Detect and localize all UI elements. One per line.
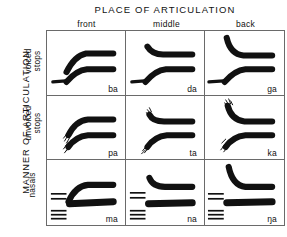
row-header-unvoiced-stops-line2: stops (33, 113, 43, 134)
spectrogram-cell-ka: ka (205, 96, 284, 161)
formant-transition-matrix-figure: PLACE OF ARTICULATION front middle back … (0, 0, 287, 237)
row-header-nasals: nasals (18, 154, 48, 216)
spectrogram-cell-ma: ma (47, 160, 126, 225)
nasal-murmur-bars-ma (51, 194, 67, 219)
syllable-label-ta: ta (190, 148, 198, 158)
column-header-front: front (47, 19, 126, 29)
syllable-label-ga: ga (267, 84, 277, 94)
syllable-label-pa: pa (108, 148, 118, 158)
syllable-label-da: da (187, 84, 197, 94)
syllable-label-ka: ka (268, 148, 277, 158)
syllable-label-nga: ŋa (267, 214, 277, 224)
row-header-voiced-stops: voiced stops (18, 30, 48, 92)
spectrogram-cell-ta: ta (126, 96, 205, 161)
column-header-middle: middle (127, 19, 206, 29)
nasal-murmur-bars-na (130, 193, 146, 219)
spectrogram-grid: ba da ga (46, 30, 285, 226)
row-header-voiced-stops-line2: stops (33, 51, 43, 72)
spectrogram-cell-nga: ŋa (205, 160, 284, 225)
spectrogram-cell-na: na (126, 160, 205, 225)
spectrogram-cell-ba: ba (47, 31, 126, 96)
row-header-nasals-line2: nasals (28, 172, 38, 197)
syllable-label-ma: ma (106, 214, 118, 224)
spectrogram-cell-da: da (126, 31, 205, 96)
nasal-murmur-bars-nga (208, 194, 224, 219)
spectrogram-cell-pa: pa (47, 96, 126, 161)
syllable-label-ba: ba (108, 84, 118, 94)
syllable-label-na: na (187, 214, 197, 224)
spectrogram-cell-ga: ga (205, 31, 284, 96)
column-axis-title: PLACE OF ARTICULATION (47, 4, 283, 15)
column-header-back: back (206, 19, 285, 29)
row-header-unvoiced-stops: unvoiced stops (18, 92, 48, 154)
